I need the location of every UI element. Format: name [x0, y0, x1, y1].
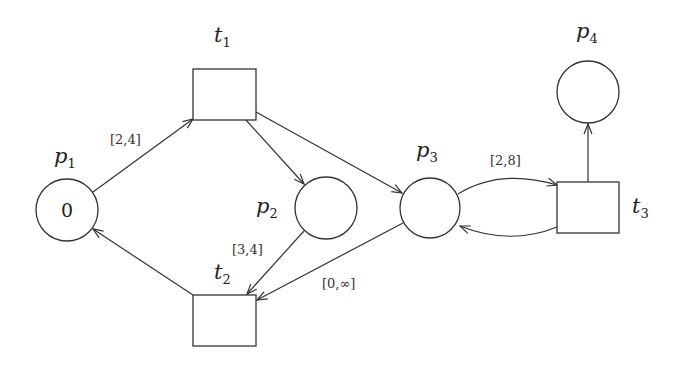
- place-p3: p3: [400, 138, 460, 238]
- place-label: p2: [256, 194, 278, 221]
- transition-label: t1: [214, 23, 231, 50]
- place-label: p4: [576, 19, 598, 46]
- interval-label-t3: [2,8]: [490, 153, 521, 168]
- place-p1: 0 p1: [36, 144, 98, 241]
- arc-p1-t1: [93, 119, 193, 192]
- transition-t3: t3: [557, 182, 649, 233]
- interval-label-t1: [2,4]: [110, 132, 141, 147]
- arc-t3-p3: [460, 226, 557, 236]
- arc-p3-t3: [458, 178, 557, 194]
- place-label: p3: [416, 138, 438, 165]
- transition-label: t2: [214, 260, 231, 287]
- transition-t1: t1: [193, 23, 256, 120]
- token-count: 0: [61, 199, 73, 221]
- place-p2: p2: [256, 177, 357, 239]
- arc-t2-p1: [93, 229, 193, 295]
- petri-net-diagram: 0 p1 p2 p3 p4 t1 t2 t3 [2,4] [3,4] [2,8]…: [0, 0, 684, 367]
- place-p4: p4: [557, 19, 619, 123]
- interval-label-t2: [3,4]: [232, 242, 263, 257]
- arc-p2-t2: [247, 231, 304, 294]
- interval-label-p3-t2: [0,∞]: [322, 276, 355, 291]
- transition-label: t3: [632, 194, 649, 221]
- transition-t2: t2: [193, 260, 256, 346]
- arc-t1-p2: [246, 120, 304, 184]
- place-label: p1: [54, 144, 76, 171]
